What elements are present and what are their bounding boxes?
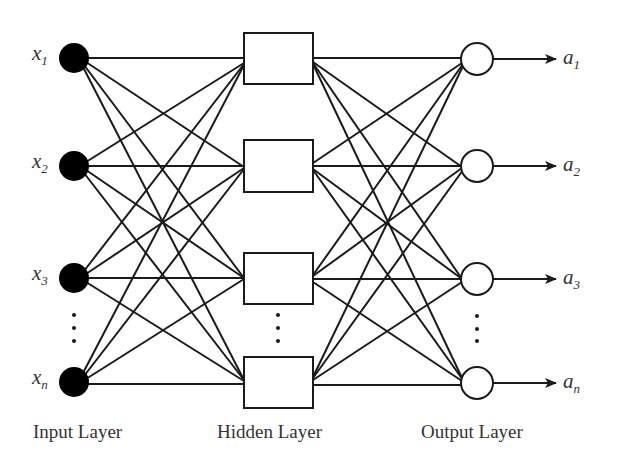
hidden-ellipsis bbox=[276, 313, 280, 343]
input-label-1: x1 bbox=[31, 41, 48, 68]
input-labels: x1 x2 x3 xn bbox=[31, 41, 48, 392]
neural-network-diagram: x1 x2 x3 xn a1 a2 a3 an bbox=[0, 0, 617, 461]
input-layer bbox=[59, 43, 89, 397]
output-ellipsis bbox=[475, 314, 479, 343]
input-label-n: xn bbox=[31, 365, 48, 392]
hidden-output-connections bbox=[313, 58, 463, 385]
input-ellipsis bbox=[72, 313, 76, 343]
input-node-1 bbox=[59, 43, 89, 73]
input-hidden-connections bbox=[83, 58, 244, 384]
hidden-layer-title: Hidden Layer bbox=[217, 421, 323, 442]
input-node-3 bbox=[59, 263, 89, 293]
input-label-3: x3 bbox=[31, 261, 48, 288]
hidden-layer bbox=[244, 33, 313, 408]
input-label-2: x2 bbox=[31, 149, 48, 176]
output-arrows bbox=[493, 59, 556, 383]
output-label-3: a3 bbox=[563, 265, 581, 292]
output-layer-title: Output Layer bbox=[421, 421, 524, 442]
output-labels: a1 a2 a3 an bbox=[563, 45, 581, 396]
input-node-2 bbox=[59, 151, 89, 181]
output-label-n: an bbox=[563, 369, 580, 396]
output-label-2: a2 bbox=[563, 152, 581, 179]
hidden-node-4 bbox=[244, 357, 313, 408]
hidden-node-1 bbox=[244, 33, 313, 84]
hidden-node-3 bbox=[244, 253, 313, 304]
hidden-node-2 bbox=[244, 140, 313, 192]
output-layer bbox=[461, 43, 493, 399]
output-node-2 bbox=[461, 150, 493, 182]
output-node-3 bbox=[461, 263, 493, 295]
input-node-n bbox=[59, 367, 89, 397]
output-node-n bbox=[461, 367, 493, 399]
output-label-1: a1 bbox=[563, 45, 580, 72]
input-layer-title: Input Layer bbox=[33, 421, 123, 442]
output-node-1 bbox=[461, 43, 493, 75]
